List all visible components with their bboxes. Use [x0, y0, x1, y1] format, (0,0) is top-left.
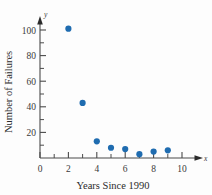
y-axis: y — [37, 10, 48, 158]
y-axis-variable-label: y — [43, 10, 48, 19]
data-point — [122, 146, 128, 152]
x-axis-minor-ticks — [54, 154, 168, 158]
y-tick-label-80: 80 — [27, 51, 37, 61]
x-tick-label-0: 0 — [38, 164, 43, 174]
data-point — [65, 26, 71, 32]
plot-canvas: y x — [0, 0, 212, 195]
data-point — [136, 151, 142, 157]
y-tick-label-100: 100 — [22, 26, 37, 36]
y-axis-arrow-icon — [37, 16, 43, 25]
y-axis-title: Number of Failures — [3, 51, 14, 133]
x-tick-label-10: 10 — [177, 164, 187, 174]
x-axis-arrow-icon — [195, 155, 204, 161]
y-tick-label-20: 20 — [27, 128, 37, 138]
data-point — [80, 100, 86, 106]
x-axis-tick-labels: 0 2 4 6 8 10 — [38, 164, 187, 174]
data-point — [165, 147, 171, 153]
x-tick-label-8: 8 — [151, 164, 156, 174]
y-tick-label-60: 60 — [27, 77, 37, 87]
x-axis: x — [40, 154, 208, 163]
y-tick-label-40: 40 — [27, 102, 37, 112]
x-axis-title: Years Since 1990 — [76, 180, 149, 191]
x-tick-label-4: 4 — [94, 164, 99, 174]
data-point — [108, 145, 114, 151]
scatter-plot-figure: y x — [0, 0, 212, 195]
y-axis-tick-labels: 100 80 60 40 20 — [22, 26, 37, 138]
data-point — [94, 138, 100, 144]
x-tick-label-6: 6 — [123, 164, 128, 174]
y-axis-major-ticks — [40, 30, 46, 132]
y-axis-minor-ticks — [40, 43, 44, 145]
data-point — [151, 149, 157, 155]
x-axis-variable-label: x — [203, 154, 208, 163]
x-tick-label-2: 2 — [66, 164, 71, 174]
data-point-group — [65, 26, 171, 158]
